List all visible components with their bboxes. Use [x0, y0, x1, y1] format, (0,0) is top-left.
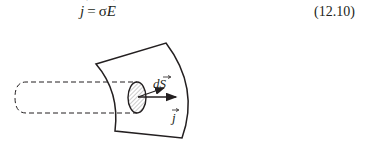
dS-text: dS	[153, 76, 166, 91]
surface-element-label: dS	[153, 76, 166, 92]
j-text: j	[172, 110, 176, 125]
dS-label-text: dS	[153, 76, 166, 91]
current-density-label: j	[172, 110, 176, 126]
current-through-surface-diagram	[0, 0, 374, 149]
